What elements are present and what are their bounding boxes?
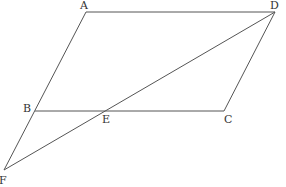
label-e: E — [102, 113, 110, 126]
label-a: A — [79, 0, 89, 12]
label-b: B — [23, 102, 31, 115]
label-d: D — [270, 0, 279, 12]
label-f: F — [0, 174, 7, 187]
geometry-diagram: A D B E C F — [0, 0, 286, 187]
label-c: C — [224, 113, 232, 126]
